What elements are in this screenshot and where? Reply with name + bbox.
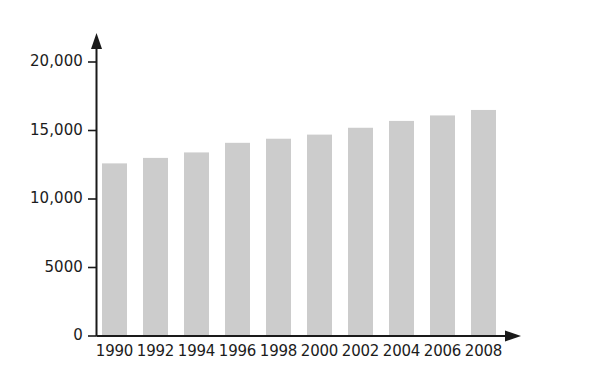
bars-group xyxy=(102,110,496,336)
x-axis-tick-label: 1996 xyxy=(216,344,260,359)
x-axis-tick-label: 2006 xyxy=(421,344,465,359)
y-axis-tick-label: 20,000 xyxy=(30,54,83,69)
bar xyxy=(471,110,496,336)
x-axis-tick-label: 1990 xyxy=(93,344,137,359)
bar xyxy=(307,135,332,336)
bar xyxy=(430,115,455,336)
bar xyxy=(348,128,373,336)
x-axis-tick-label: 1998 xyxy=(257,344,301,359)
bar xyxy=(225,143,250,336)
y-axis-tick-label: 15,000 xyxy=(30,123,83,138)
y-axis-tick-label: 5000 xyxy=(44,260,83,275)
y-axis-tick-label: 10,000 xyxy=(30,191,83,206)
x-axis-tick-label: 2000 xyxy=(298,344,342,359)
chart-plot-area xyxy=(0,0,598,386)
x-axis-tick-label: 2008 xyxy=(462,344,506,359)
x-axis-tick-label: 1994 xyxy=(175,344,219,359)
y-axis-ticks-group xyxy=(88,62,97,336)
bar xyxy=(184,152,209,336)
bar xyxy=(266,139,291,336)
y-axis-tick-label: 0 xyxy=(73,328,83,343)
x-axis-right-arrow-icon xyxy=(505,331,521,342)
y-axis-up-arrow-icon xyxy=(91,33,102,49)
bar xyxy=(143,158,168,336)
x-axis-tick-label: 1992 xyxy=(134,344,178,359)
x-axis-tick-label: 2002 xyxy=(339,344,383,359)
bar xyxy=(102,163,127,336)
x-axis-tick-label: 2004 xyxy=(380,344,424,359)
bar-chart: 20,00015,00010,00050000 1990199219941996… xyxy=(0,0,598,386)
bar xyxy=(389,121,414,336)
